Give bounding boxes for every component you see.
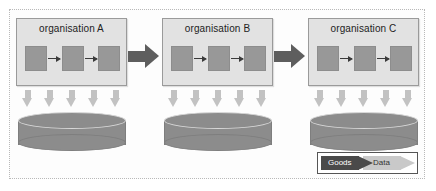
process-step-b-1[interactable]	[171, 46, 193, 71]
database-a-bottom	[18, 134, 126, 151]
process-arrow-a-2	[85, 58, 97, 59]
legend-goods-arrow-icon: Goods	[321, 156, 373, 170]
data-arrow-c-4	[380, 90, 391, 107]
database-c[interactable]	[310, 112, 418, 153]
data-arrow-b-5	[256, 90, 267, 107]
organisation-box-c[interactable]: organisation C	[308, 18, 419, 86]
data-arrow-b-1	[168, 90, 179, 107]
process-step-b-3[interactable]	[244, 46, 266, 71]
process-arrow-c-2	[377, 58, 389, 59]
goods-arrow-b-to-c	[274, 44, 305, 68]
data-arrow-a-2	[44, 90, 55, 107]
process-step-a-3[interactable]	[98, 46, 120, 71]
process-chain-a	[25, 45, 120, 73]
data-arrow-a-3	[66, 90, 77, 107]
data-arrow-a-1	[22, 90, 33, 107]
organisation-label-b: organisation B	[163, 23, 272, 34]
data-arrow-b-3	[212, 90, 223, 107]
database-a-top	[18, 112, 126, 129]
organisation-box-b[interactable]: organisation B	[162, 18, 273, 86]
database-c-bottom	[310, 134, 418, 151]
database-b-top	[164, 112, 272, 129]
process-step-c-1[interactable]	[317, 46, 339, 71]
diagram-canvas: organisation A organisation B	[0, 0, 436, 191]
process-step-a-2[interactable]	[62, 46, 84, 71]
process-chain-c	[317, 45, 412, 73]
legend: Data Goods	[317, 152, 418, 174]
organisation-label-a: organisation A	[17, 23, 126, 34]
data-arrow-a-4	[88, 90, 99, 107]
legend-goods-label: Goods	[328, 158, 352, 168]
database-b[interactable]	[164, 112, 272, 153]
process-arrow-b-1	[194, 58, 206, 59]
data-arrow-c-5	[402, 90, 413, 107]
organisation-label-c: organisation C	[309, 23, 418, 34]
process-step-c-3[interactable]	[390, 46, 412, 71]
data-arrow-a-5	[110, 90, 121, 107]
legend-data-label: Data	[373, 158, 390, 168]
data-arrow-b-4	[234, 90, 245, 107]
process-arrow-b-2	[231, 58, 243, 59]
data-arrow-c-3	[358, 90, 369, 107]
data-arrow-c-2	[336, 90, 347, 107]
database-b-bottom	[164, 134, 272, 151]
data-arrow-b-2	[190, 90, 201, 107]
database-c-top	[310, 112, 418, 129]
process-arrow-a-1	[48, 58, 60, 59]
process-arrow-c-1	[340, 58, 352, 59]
process-step-a-1[interactable]	[25, 46, 47, 71]
goods-arrow-a-to-b	[128, 44, 159, 68]
data-arrow-c-1	[314, 90, 325, 107]
database-a[interactable]	[18, 112, 126, 153]
process-chain-b	[171, 45, 266, 73]
process-step-b-2[interactable]	[208, 46, 230, 71]
process-step-c-2[interactable]	[354, 46, 376, 71]
organisation-box-a[interactable]: organisation A	[16, 18, 127, 86]
